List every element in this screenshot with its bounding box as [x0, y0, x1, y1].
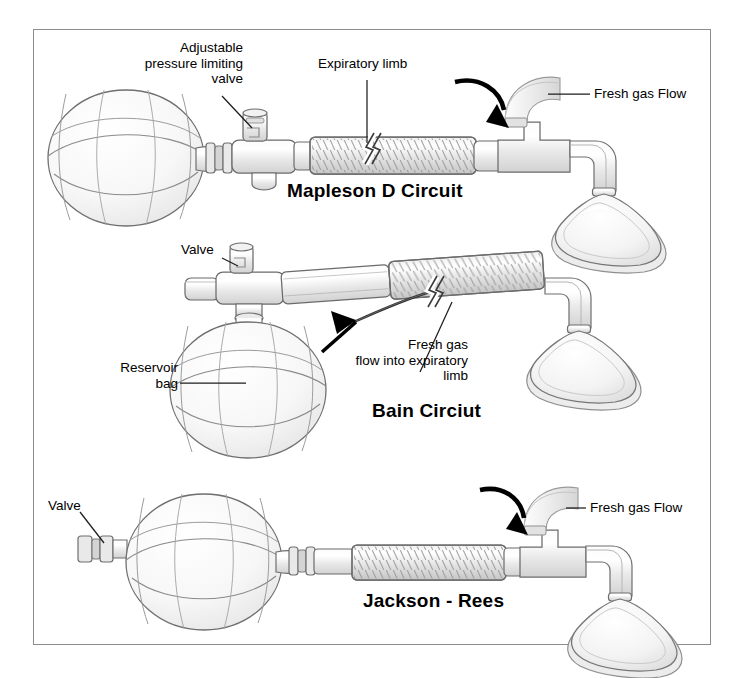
title-bain-circuit: Bain Circiut: [372, 400, 572, 422]
reservoir-bag-shape: [170, 322, 326, 458]
fresh-gas-inlet-tube: [524, 487, 578, 535]
corrugated-limb: [352, 545, 506, 580]
label-fresh-gas-flow-into-expiratory-limb: Fresh gas flow into expiratory limb: [344, 337, 468, 384]
fresh-gas-flow-arrow: [480, 489, 528, 535]
patient-mask-assembly: [527, 278, 641, 410]
corrugated-expiratory-limb: [310, 137, 476, 174]
fresh-gas-flow-arrow: [455, 81, 509, 128]
mapleson-d-circuit-illustration: [48, 77, 666, 273]
reservoir-bag-shape: [126, 494, 282, 630]
label-expiratory-limb: Expiratory limb: [318, 56, 448, 72]
label-valve-bain: Valve: [181, 242, 251, 258]
label-fresh-gas-flow-jackson: Fresh gas Flow: [590, 500, 715, 516]
diagram-canvas: Adjustable pressure limiting valve Expir…: [0, 0, 734, 678]
title-mapleson-d-circuit: Mapleson D Circuit: [287, 180, 507, 202]
apl-valve-cap: [243, 109, 267, 141]
jackson-rees-circuit-illustration: [78, 487, 682, 678]
label-valve-jackson: Valve: [48, 498, 118, 514]
label-adjustable-pressure-limiting-valve: Adjustable pressure limiting valve: [118, 40, 243, 87]
title-jackson-rees: Jackson - Rees: [363, 590, 563, 612]
label-fresh-gas-flow-mapleson: Fresh gas Flow: [594, 86, 714, 102]
fresh-gas-inlet-tube: [505, 77, 560, 127]
label-reservoir-bag: Reservoir bag: [94, 360, 178, 391]
reservoir-bag-shape: [48, 90, 204, 226]
